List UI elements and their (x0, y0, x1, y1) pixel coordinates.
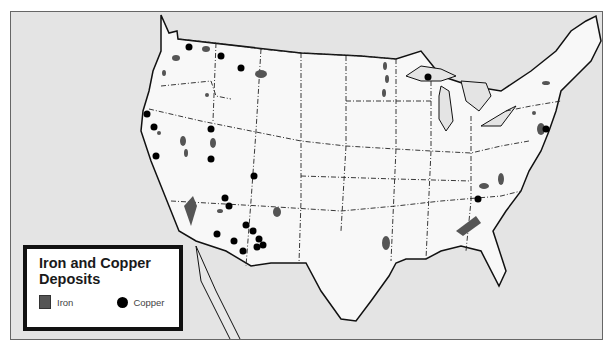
legend-items: Iron Copper (39, 295, 167, 309)
legend-label-copper: Copper (133, 297, 164, 308)
legend-title: Iron and Copper Deposits (39, 255, 167, 287)
baja-peninsula (196, 246, 241, 340)
legend-title-line2: Deposits (39, 271, 167, 287)
legend-label-iron: Iron (57, 297, 73, 308)
us-landmass (141, 15, 601, 321)
map-legend: Iron and Copper Deposits Iron Copper (23, 245, 183, 331)
legend-title-line1: Iron and Copper (39, 255, 167, 271)
iron-square-icon (39, 295, 51, 309)
copper-dot-icon (117, 297, 128, 308)
